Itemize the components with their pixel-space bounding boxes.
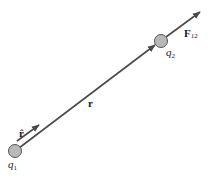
f12-label-sub: 12 <box>191 32 199 40</box>
charge-q1 <box>9 145 22 158</box>
q1-label: q1 <box>8 158 18 172</box>
r-hat-label: r̂ <box>19 127 24 139</box>
q2-label: q2 <box>166 46 176 60</box>
q1-label-sub: 1 <box>14 164 18 172</box>
r-label: r <box>88 97 93 109</box>
coulomb-diagram: r̂ r q1 q2 F12 <box>0 0 208 184</box>
q2-label-sub: 2 <box>172 52 176 60</box>
r-vector-arrow <box>19 45 155 148</box>
f12-label: F12 <box>184 27 198 40</box>
